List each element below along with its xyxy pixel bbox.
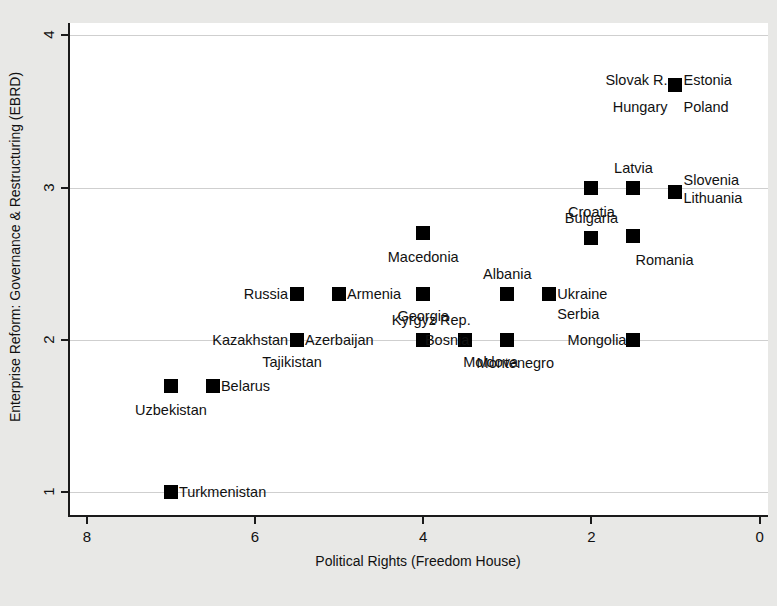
data-point-label: Turkmenistan [179,485,266,500]
data-point-label: Ukraine [557,287,607,302]
data-point-marker[interactable] [416,226,430,240]
data-point-marker[interactable] [206,379,220,393]
scatter-chart-figure: Enterprise Reform: Governance & Restruct… [0,0,777,606]
x-axis-tick [254,515,256,524]
data-point-marker[interactable] [626,333,640,347]
x-axis-tick [422,515,424,524]
data-point-label: Azerbaijan [305,333,374,348]
data-point-label: Tajikistan [262,355,322,370]
x-axis-tick-label: 8 [72,528,102,545]
y-axis-title-text: Enterprise Reform: Governance & Restruct… [7,72,23,422]
data-point-label: Bulgaria [565,211,618,226]
y-axis-tick-label: 2 [40,327,57,351]
y-axis-title: Enterprise Reform: Governance & Restruct… [4,0,26,494]
data-point-label: Bosnia [425,333,469,348]
data-point-marker[interactable] [542,287,556,301]
data-point-label: Lithuania [683,191,742,206]
data-point-label: Hungary [613,100,668,115]
data-point-label: Uzbekistan [135,402,207,417]
plot-area: 123486420Slovak R.EstoniaHungaryPolandCr… [68,23,768,517]
data-point-label: Macedonia [388,250,459,265]
data-point-marker[interactable] [584,181,598,195]
data-point-marker[interactable] [626,181,640,195]
data-point-marker[interactable] [332,287,346,301]
data-point-label: Slovak R. [605,73,667,88]
x-axis-tick-label: 6 [240,528,270,545]
data-point-marker[interactable] [416,287,430,301]
y-axis-tick [61,34,70,36]
x-axis-title: Political Rights (Freedom House) [68,553,768,569]
data-point-marker[interactable] [164,379,178,393]
x-axis-tick [86,515,88,524]
y-axis-tick-label: 1 [40,480,57,504]
y-axis-tick-label: 4 [40,23,57,47]
data-point-label: Belarus [221,378,270,393]
x-axis-tick-label: 0 [745,528,775,545]
data-point-marker[interactable] [290,333,304,347]
data-point-marker[interactable] [290,287,304,301]
data-point-label: Serbia [557,307,599,322]
data-point-label: Slovenia [683,173,739,188]
data-point-marker[interactable] [668,78,682,92]
y-axis-tick [61,491,70,493]
data-point-label: Romania [635,253,693,268]
x-axis-tick-label: 2 [576,528,606,545]
data-point-label: Latvia [614,160,653,175]
data-point-marker[interactable] [668,185,682,199]
data-point-label: Russia [244,287,288,302]
data-point-marker[interactable] [500,287,514,301]
data-point-marker[interactable] [584,231,598,245]
data-point-marker[interactable] [164,485,178,499]
x-axis-tick-label: 4 [408,528,438,545]
y-gridline [70,188,768,189]
y-axis-tick-label: 3 [40,175,57,199]
data-point-label: Armenia [347,287,401,302]
data-point-label: Kazakhstan [212,333,288,348]
data-point-label: Kyrgyz Rep. [392,313,471,328]
x-axis-tick [759,515,761,524]
y-axis-tick [61,339,70,341]
data-point-marker[interactable] [500,333,514,347]
data-point-label: Estonia [683,73,731,88]
y-axis-tick [61,187,70,189]
data-point-label: Poland [683,100,728,115]
data-point-label: Albania [483,267,531,282]
data-point-marker[interactable] [626,229,640,243]
data-point-label: Montenegro [477,356,554,371]
x-axis-tick [590,515,592,524]
data-point-label: Mongolia [568,333,627,348]
y-gridline [70,35,768,36]
